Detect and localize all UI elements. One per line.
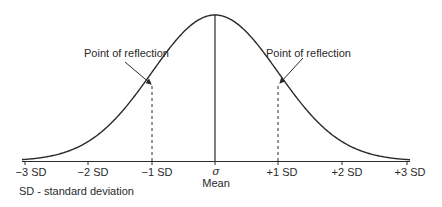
tick-label-plus-1sd: +1 SD: [267, 166, 298, 178]
footnote: SD - standard deviation: [19, 185, 134, 197]
tick-label-plus-2sd: +2 SD: [332, 166, 363, 178]
tick-label-mean: Mean: [202, 177, 230, 189]
left-inflection-label: Point of reflection: [84, 47, 169, 59]
tick-label-minus-2sd: −2 SD: [78, 166, 109, 178]
normal-distribution-diagram: [0, 0, 442, 207]
tick-label-minus-3sd: −3 SD: [16, 166, 47, 178]
left-annotation-arrow: [125, 62, 151, 84]
right-annotation-arrow: [280, 58, 303, 83]
tick-label-minus-1sd: −1 SD: [142, 166, 173, 178]
right-inflection-label: Point of reflection: [266, 47, 351, 59]
tick-label-plus-3sd: +3 SD: [395, 166, 426, 178]
bell-curve: [22, 15, 410, 160]
